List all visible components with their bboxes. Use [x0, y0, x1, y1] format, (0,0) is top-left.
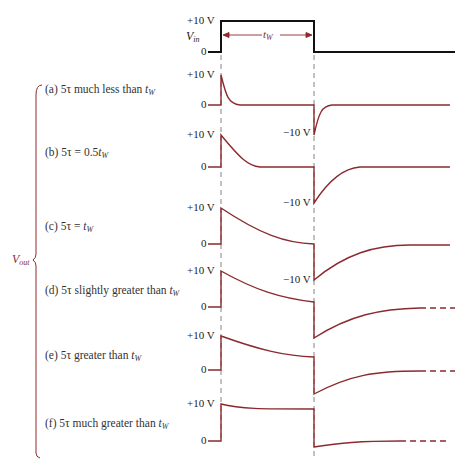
- time-guide-lines: [221, 55, 314, 458]
- waveform-c: [208, 208, 450, 280]
- vin-zero-label: 0: [201, 46, 207, 57]
- caption-e: (e) 5τ greater than tW: [45, 350, 141, 363]
- a-zero-label: 0: [201, 99, 207, 110]
- caption-f: (f) 5τ much greater than tW: [45, 418, 168, 431]
- vout-brace: [33, 85, 42, 458]
- vin-high-label: +10 V: [187, 15, 215, 26]
- c-neg-label: −10 V: [283, 274, 311, 285]
- caption-b: (b) 5τ = 0.5tW: [45, 147, 108, 160]
- f-high-label: +10 V: [187, 398, 215, 409]
- c-zero-label: 0: [201, 238, 207, 249]
- b-zero-label: 0: [201, 161, 207, 172]
- waveform-a: [208, 75, 450, 135]
- vin-label: Vin: [186, 30, 200, 44]
- pulse-width-label: tW: [263, 29, 273, 42]
- b-high-label: +10 V: [187, 129, 215, 140]
- d-zero-label: 0: [201, 301, 207, 312]
- caption-a: (a) 5τ much less than tW: [45, 84, 155, 97]
- waveform-b: [208, 135, 450, 203]
- a-neg-label: −10 V: [283, 127, 311, 138]
- a-high-label: +10 V: [187, 69, 215, 80]
- d-high-label: +10 V: [187, 265, 215, 276]
- output-waveforms: [208, 75, 455, 447]
- e-zero-label: 0: [201, 364, 207, 375]
- waveform-f: [208, 404, 400, 447]
- vout-label: Vout: [12, 253, 30, 267]
- b-neg-label: −10 V: [283, 197, 311, 208]
- caption-c: (c) 5τ = tW: [45, 221, 93, 234]
- c-high-label: +10 V: [187, 202, 215, 213]
- f-zero-label: 0: [201, 435, 207, 446]
- input-pulse: [208, 21, 455, 52]
- e-high-label: +10 V: [187, 330, 215, 341]
- caption-d: (d) 5τ slightly greater than tW: [45, 285, 179, 298]
